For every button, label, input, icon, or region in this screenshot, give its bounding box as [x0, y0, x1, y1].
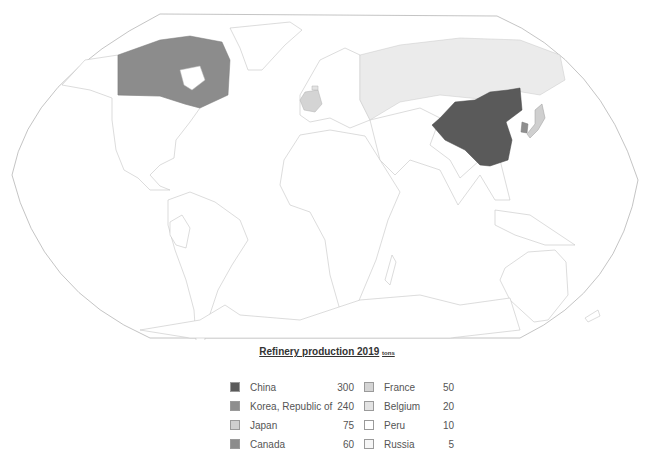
legend-item: Korea, Republic of 240: [230, 399, 240, 413]
legend-value: 75: [326, 420, 354, 431]
legend-item: Russia 5: [364, 437, 374, 451]
legend-swatch: [230, 382, 240, 392]
legend-label: Japan: [250, 420, 277, 431]
legend-label: Russia: [384, 439, 415, 450]
legend-swatch: [230, 401, 240, 411]
legend-item: France 50: [364, 380, 374, 394]
legend-value: 20: [430, 401, 454, 412]
legend-label: China: [250, 382, 276, 393]
legend-value: 5: [430, 439, 454, 450]
legend-swatch: [230, 439, 240, 449]
legend-value: 300: [326, 382, 354, 393]
legend-label: Peru: [384, 420, 405, 431]
title-text: Refinery production 2019: [259, 346, 379, 357]
legend-label: France: [384, 382, 415, 393]
legend-item: Peru 10: [364, 418, 374, 432]
legend-value: 50: [430, 382, 454, 393]
legend-item: Canada 60: [230, 437, 240, 451]
legend-label: Belgium: [384, 401, 420, 412]
legend-swatch: [364, 420, 374, 430]
legend-swatch: [364, 439, 374, 449]
legend-swatch: [364, 382, 374, 392]
world-map: [0, 0, 654, 340]
country-belgium: [312, 86, 318, 90]
legend-value: 240: [326, 401, 354, 412]
country-south-korea: [521, 122, 528, 133]
title-unit: tons: [382, 350, 395, 356]
legend-item: China 300: [230, 380, 240, 394]
legend-label: Korea, Republic of: [250, 401, 332, 412]
legend-item: Belgium 20: [364, 399, 374, 413]
legend-value: 60: [326, 439, 354, 450]
legend-swatch: [230, 420, 240, 430]
legend-item: Japan 75: [230, 418, 240, 432]
legend-swatch: [364, 401, 374, 411]
legend-value: 10: [430, 420, 454, 431]
legend-label: Canada: [250, 439, 285, 450]
new-zealand: [585, 310, 600, 322]
map-title: Refinery production 2019 tons: [0, 346, 654, 357]
